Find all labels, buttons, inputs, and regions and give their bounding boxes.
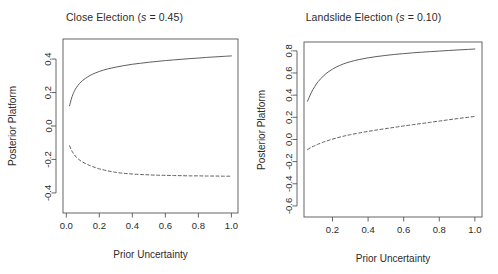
y-axis-tick-label: -0.2: [43, 151, 54, 167]
y-axis-tick-label: 0.2: [284, 111, 295, 124]
x-axis-label-landslide-election: Prior Uncertainty: [304, 253, 482, 264]
x-axis-tick-label: 0.2: [93, 220, 106, 231]
y-axis-tick-label: -0.4: [43, 185, 54, 201]
y-axis-tick-label: 0.8: [284, 44, 295, 57]
y-axis-tick-label: -0.4: [284, 176, 295, 192]
plot-box: [304, 42, 482, 217]
panel-close-election: Close Election (s = 0.45) 0.00.20.40.60.…: [0, 0, 249, 274]
series-lower-platform-dashed: [308, 116, 475, 149]
x-axis-label-close-election: Prior Uncertainty: [63, 249, 238, 260]
y-axis-tick-label: 0.0: [43, 119, 54, 132]
y-axis-tick-label: 0.4: [43, 52, 54, 65]
y-axis-tick-label: -0.6: [284, 198, 295, 214]
x-axis-tick-label: 0.6: [159, 220, 172, 231]
x-axis-tick-label: 0.0: [60, 220, 73, 231]
series-lower-platform-dashed: [70, 146, 232, 176]
y-axis-tick-label: -0.2: [284, 153, 295, 169]
y-axis-tick-label: 0.6: [284, 66, 295, 79]
x-axis-tick-label: 0.8: [433, 224, 446, 235]
y-axis-label-landslide-election: Posterior Platform: [256, 89, 267, 169]
series-upper-platform-solid: [308, 49, 475, 101]
x-axis-tick-label: 0.2: [326, 224, 339, 235]
x-axis-tick-label: 1.0: [468, 224, 481, 235]
y-axis-label-close-election: Posterior Platform: [7, 86, 18, 166]
x-axis-tick-label: 0.4: [361, 224, 374, 235]
y-axis-tick-label: 0.0: [284, 133, 295, 146]
plot-box: [63, 39, 238, 213]
x-axis-tick-label: 1.0: [225, 220, 238, 231]
y-axis-tick-label: 0.2: [43, 86, 54, 99]
x-axis-tick-label: 0.6: [397, 224, 410, 235]
panel-landslide-election: Landslide Election (s = 0.10) 0.20.40.60…: [249, 0, 498, 274]
x-axis-tick-label: 0.4: [126, 220, 139, 231]
plot-area-close-election: 0.00.20.40.60.81.0-0.4-0.20.00.20.4: [0, 0, 249, 274]
y-axis-tick-label: 0.4: [284, 89, 295, 102]
x-axis-tick-label: 0.8: [192, 220, 205, 231]
plot-area-landslide-election: 0.20.40.60.81.0-0.6-0.4-0.20.00.20.40.60…: [249, 0, 498, 274]
figure-container: Close Election (s = 0.45) 0.00.20.40.60.…: [0, 0, 498, 274]
series-upper-platform-solid: [70, 56, 232, 106]
